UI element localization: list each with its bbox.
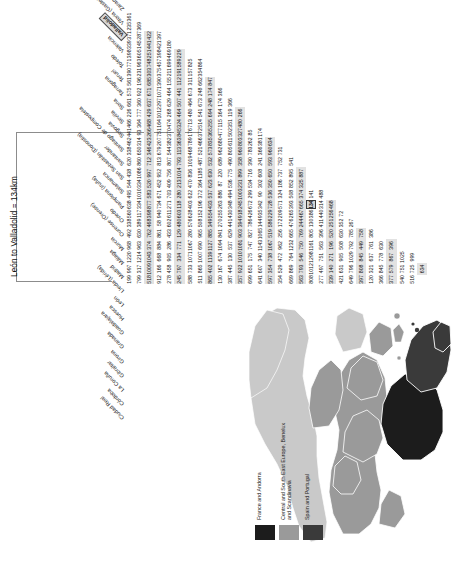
- matrix-cell: 758: [356, 228, 366, 240]
- matrix-cell-empty: [306, 8, 316, 10]
- matrix-cell: 685: [144, 77, 154, 86]
- table-row: 120321637761386: [366, 8, 376, 284]
- matrix-cell-empty: [164, 22, 174, 31]
- matrix-cell: 630: [376, 239, 386, 251]
- matrix-cell: 960: [265, 146, 275, 155]
- matrix-cell-empty: [164, 12, 174, 21]
- matrix-cell-empty: [417, 275, 427, 284]
- matrix-cell-empty: [144, 8, 154, 10]
- matrix-cell: 1067: [265, 239, 275, 251]
- matrix-cell-empty: [195, 11, 205, 12]
- matrix-cell: 672: [245, 200, 255, 209]
- matrix-cell: 334: [174, 251, 184, 263]
- matrix-cell-empty: [225, 22, 235, 31]
- matrix-cell-empty: [275, 31, 285, 40]
- matrix-cell: 750: [296, 239, 306, 251]
- matrix-cell-empty: [185, 40, 195, 49]
- matrix-cell: 175: [245, 251, 255, 263]
- matrix-cell: 771: [174, 239, 184, 251]
- matrix-cell: 441: [174, 86, 184, 98]
- matrix-cell: 317: [134, 263, 144, 275]
- matrix-cell-empty: [326, 22, 336, 31]
- table-row: 5887331071106728057662840362247083610194…: [185, 8, 195, 284]
- matrix-cell: 630: [134, 228, 144, 240]
- matrix-cell-empty: [225, 68, 235, 77]
- matrix-cell-empty: [356, 209, 366, 218]
- matrix-cell-empty: [376, 98, 386, 107]
- matrix-cell: 852: [286, 179, 296, 188]
- matrix-cell: 1143: [255, 239, 265, 251]
- matrix-cell: 370: [164, 128, 174, 137]
- table-row: 634: [417, 8, 427, 284]
- matrix-cell-empty: [225, 58, 235, 67]
- matrix-cell: 314: [316, 200, 326, 209]
- matrix-cell-empty: [356, 12, 366, 21]
- matrix-cell-empty: [154, 10, 164, 11]
- matrix-cell-empty: [397, 128, 407, 137]
- matrix-cell: 495: [124, 188, 134, 200]
- matrix-cell-empty: [417, 218, 427, 227]
- matrix-cell: 348: [225, 200, 235, 209]
- matrix-cell-empty: [376, 146, 386, 155]
- matrix-cell: 248: [195, 86, 205, 98]
- matrix-cell: 440: [316, 209, 326, 218]
- matrix-cell-empty: [386, 12, 396, 21]
- matrix-cell: 519: [265, 228, 275, 240]
- distance-matrix-figure: León to Valladolid = 134km Ciudad RealCó…: [6, 8, 468, 284]
- matrix-cell: 112: [174, 77, 184, 86]
- matrix-cell: 583: [144, 188, 154, 200]
- matrix-cell-empty: [366, 146, 376, 155]
- matrix-cell-empty: [326, 10, 336, 11]
- matrix-cell: 634: [265, 137, 275, 146]
- matrix-cell: 117: [134, 209, 144, 218]
- table-row: 377579867396: [386, 8, 396, 284]
- matrix-cell: 699: [245, 275, 255, 284]
- matrix-cell-empty: [245, 98, 255, 107]
- matrix-cell-empty: [386, 58, 396, 67]
- matrix-cell-empty: [386, 188, 396, 200]
- matrix-cell: 571: [275, 200, 285, 209]
- matrix-cell: 630: [205, 167, 215, 179]
- matrix-cell: 589: [174, 58, 184, 67]
- matrix-cell: 845: [356, 251, 366, 263]
- matrix-cell-empty: [296, 58, 306, 67]
- matrix-cell: 511: [195, 275, 205, 284]
- matrix-cell-empty: [386, 10, 396, 11]
- matrix-cell: 311: [185, 77, 195, 86]
- matrix-cell: 827: [245, 228, 255, 240]
- matrix-cell-empty: [326, 58, 336, 67]
- matrix-cell-empty: [346, 11, 356, 12]
- matrix-cell-empty: [265, 12, 275, 21]
- matrix-cell: 271: [326, 251, 336, 263]
- matrix-cell: 605: [134, 49, 144, 58]
- matrix-cell-empty: [417, 188, 427, 200]
- matrix-cell: 172: [275, 218, 285, 227]
- matrix-cell: 785: [346, 228, 356, 240]
- table-row: 5181009104337476246839887758352099771234…: [144, 8, 154, 284]
- matrix-cell-empty: [286, 40, 296, 49]
- matrix-cell: 324: [174, 119, 184, 128]
- matrix-cell-empty: [205, 11, 215, 12]
- matrix-cell-empty: [275, 10, 285, 11]
- matrix-cell: 793: [174, 155, 184, 167]
- matrix-cell: 271: [164, 200, 174, 209]
- matrix-cell: 629: [225, 228, 235, 240]
- matrix-cell-empty: [407, 155, 417, 167]
- matrix-cell-empty: [417, 251, 427, 263]
- matrix-cell: 441: [124, 128, 134, 137]
- matrix-cell: 1012: [154, 107, 164, 119]
- matrix-cell-empty: [356, 22, 366, 31]
- matrix-cell-empty: [417, 119, 427, 128]
- matrix-cell-empty: [245, 11, 255, 12]
- matrix-cell-empty: [356, 179, 366, 188]
- matrix-cell-empty: [255, 31, 265, 40]
- matrix-cell: 813: [154, 155, 164, 167]
- matrix-cell-empty: [346, 49, 356, 58]
- matrix-cell-empty: [265, 40, 275, 49]
- matrix-cell: 637: [366, 251, 376, 263]
- matrix-cell-empty: [407, 146, 417, 155]
- matrix-cell: 783: [245, 146, 255, 155]
- matrix-cell: 433: [164, 228, 174, 240]
- matrix-cell: 358: [235, 155, 245, 167]
- matrix-cell: 430: [225, 209, 235, 218]
